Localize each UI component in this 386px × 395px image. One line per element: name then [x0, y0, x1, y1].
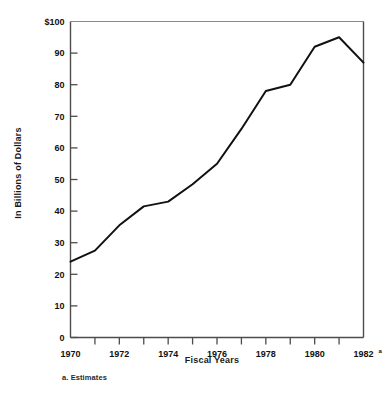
y-axis-ticks	[71, 53, 78, 337]
y-tick-label: $100	[44, 17, 64, 27]
y-tick-label: 60	[54, 143, 64, 153]
y-tick-label: 0	[59, 333, 64, 343]
y-tick-label: 40	[54, 206, 64, 216]
plot-frame	[71, 22, 364, 338]
x-tick-label-superscript: a	[379, 348, 383, 354]
x-axis-ticks	[95, 338, 339, 345]
data-series-line	[71, 37, 364, 261]
line-chart-plot: 0102030405060708090$100 1970197219741976…	[0, 0, 386, 395]
chart-footnote: a. Estimates	[62, 373, 107, 382]
y-tick-label: 10	[54, 301, 64, 311]
x-axis-title: Fiscal Years	[59, 355, 365, 365]
y-tick-label: 50	[54, 175, 64, 185]
y-tick-label: 80	[54, 80, 64, 90]
y-tick-label: 90	[54, 48, 64, 58]
y-axis-tick-labels: 0102030405060708090$100	[44, 17, 64, 343]
chart-figure: In Billions of Dollars 01020304050607080…	[0, 0, 386, 395]
y-tick-label: 70	[54, 112, 64, 122]
y-tick-label: 20	[54, 270, 64, 280]
y-tick-label: 30	[54, 238, 64, 248]
